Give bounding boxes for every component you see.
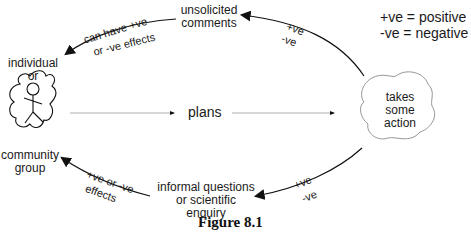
group-label: group [0,162,60,175]
action-label: action [380,117,420,130]
node-action: takes some action [380,91,420,130]
comments-label: comments [178,17,240,30]
figure-caption: Figure 8.1 [198,214,263,231]
node-plans: plans [188,104,221,120]
legend-negative: -ve = negative [380,25,468,41]
or-label: or [8,70,58,83]
node-individual: individual or [8,57,58,83]
node-comments: unsolicited comments [178,4,240,30]
node-community: community group [0,149,60,175]
feedback-diagram: +ve = positive -ve = negative individual… [0,0,471,236]
legend-positive: +ve = positive [380,9,466,25]
